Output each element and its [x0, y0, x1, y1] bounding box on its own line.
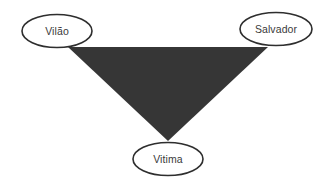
inverted-triangle-shape [68, 47, 268, 141]
drama-triangle-diagram: Vilão Salvador Vitima [0, 0, 327, 190]
vitima-label: Vitima [153, 153, 183, 165]
salvador-label: Salvador [255, 23, 298, 35]
vilao-label: Vilão [45, 25, 69, 37]
node-vilao[interactable]: Vilão [22, 15, 92, 48]
diagram-canvas: Vilão Salvador Vitima [0, 0, 327, 190]
node-salvador[interactable]: Salvador [240, 13, 312, 46]
node-vitima[interactable]: Vitima [133, 143, 203, 176]
